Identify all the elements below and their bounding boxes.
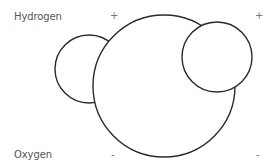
- large-circle: [93, 15, 235, 157]
- right-small-circle: [182, 22, 252, 92]
- circles-diagram: [0, 0, 273, 167]
- left-small-circle: [55, 35, 123, 103]
